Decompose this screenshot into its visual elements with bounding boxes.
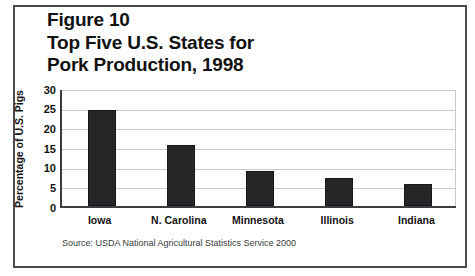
gridline bbox=[62, 169, 456, 170]
gridline bbox=[62, 129, 456, 130]
y-axis-tick-label: 15 bbox=[34, 144, 56, 155]
plot-area bbox=[60, 90, 456, 208]
gridline bbox=[62, 149, 456, 150]
gridline bbox=[62, 90, 456, 91]
y-axis-tick-label: 30 bbox=[34, 85, 56, 96]
bar bbox=[404, 184, 432, 206]
x-axis-tick-labels: IowaN. CarolinaMinnesotaIllinoisIndiana bbox=[60, 214, 456, 230]
x-axis-tick-label: Minnesota bbox=[218, 214, 297, 226]
y-axis-tick-label: 5 bbox=[34, 183, 56, 194]
y-axis-tick-label: 0 bbox=[34, 203, 56, 214]
gridline bbox=[62, 110, 456, 111]
x-axis-tick-label: Iowa bbox=[60, 214, 139, 226]
x-axis-tick-label: N. Carolina bbox=[139, 214, 218, 226]
x-axis-tick-label: Illinois bbox=[298, 214, 377, 226]
source-note: Source: USDA National Agricultural Stati… bbox=[62, 238, 296, 248]
y-axis-tick-labels: 051015202530 bbox=[30, 90, 56, 208]
y-axis-tick-label: 20 bbox=[34, 124, 56, 135]
bar bbox=[246, 171, 274, 206]
bar bbox=[88, 110, 116, 206]
y-axis-tick-label: 25 bbox=[34, 104, 56, 115]
y-axis-title: Percentage of U.S. Pigs bbox=[13, 85, 25, 213]
bar-chart: Percentage of U.S. Pigs 051015202530 Iow… bbox=[0, 0, 475, 276]
bar bbox=[167, 145, 195, 206]
x-axis-tick-label: Indiana bbox=[377, 214, 456, 226]
figure-root: Figure 10 Top Five U.S. States for Pork … bbox=[0, 0, 475, 276]
bar bbox=[325, 178, 353, 206]
y-axis-tick-label: 10 bbox=[34, 163, 56, 174]
